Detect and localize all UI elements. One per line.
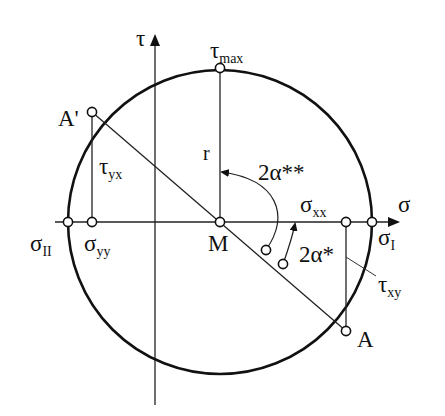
tau-max-label: τmax bbox=[210, 38, 243, 66]
point-sigma-yy bbox=[87, 217, 96, 226]
point-sigma-xx bbox=[341, 217, 350, 226]
A-prime-label: A' bbox=[58, 106, 79, 131]
sigma-yy-label: σyy bbox=[84, 231, 110, 259]
M-label: M bbox=[208, 231, 228, 256]
sigma-axis-label: σ bbox=[398, 192, 411, 217]
A-label: A bbox=[357, 327, 374, 352]
angle-2a-star-label: 2α* bbox=[299, 242, 334, 267]
tau-axis-label: τ bbox=[136, 26, 145, 51]
sigma-I-label: σI bbox=[378, 225, 395, 253]
tau-xy-label: τxy bbox=[378, 272, 401, 300]
angle-arc-2a-star bbox=[283, 224, 295, 264]
angle-2a-star-star-label: 2α** bbox=[258, 160, 305, 185]
tau-xy-leader bbox=[346, 257, 376, 276]
point-M bbox=[215, 217, 224, 226]
sigma-II-label: σII bbox=[30, 231, 52, 259]
point-A-prime bbox=[87, 107, 96, 116]
point-sigma-II bbox=[63, 217, 72, 226]
tau-yx-label: τyx bbox=[99, 154, 122, 182]
point-A bbox=[341, 326, 350, 335]
mohr-circle-diagram: τ σ τmax A' A M r τyx σII σyy σxx σI τxy… bbox=[0, 0, 445, 416]
point-sigma-I bbox=[367, 217, 376, 226]
sigma-xx-label: σxx bbox=[300, 192, 326, 220]
point-arc-start-2a-star bbox=[278, 259, 287, 268]
r-label: r bbox=[203, 142, 210, 164]
point-arc-start-2a-star-star bbox=[261, 245, 270, 254]
